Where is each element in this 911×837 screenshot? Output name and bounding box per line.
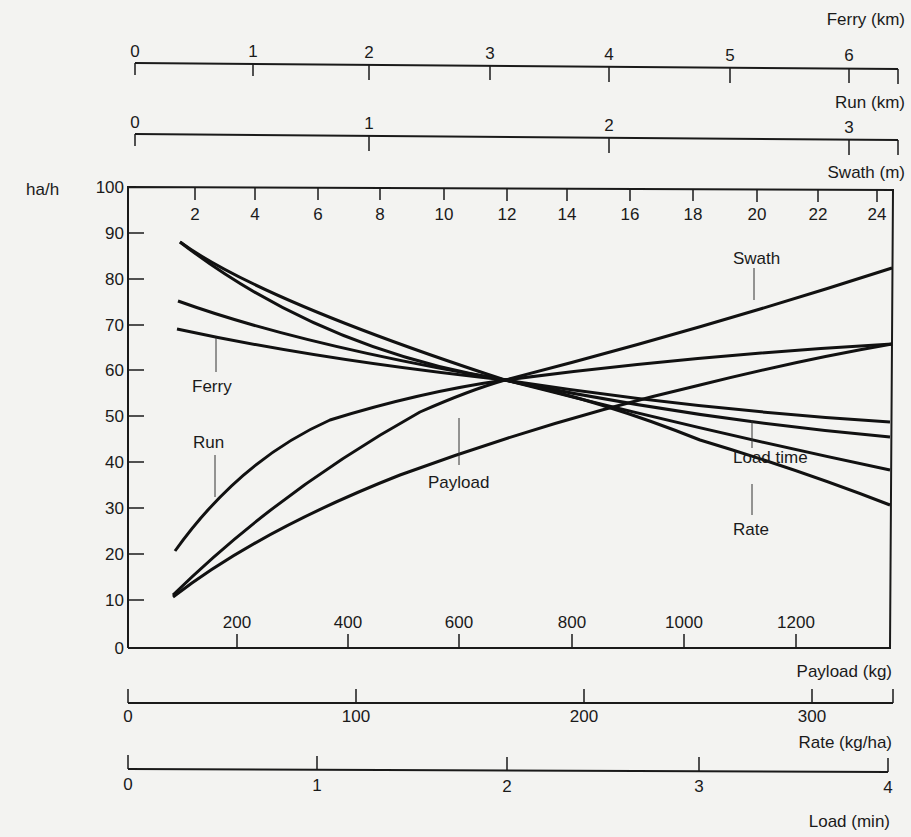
ferry-tick: 0 bbox=[130, 42, 139, 61]
y-tick: 80 bbox=[105, 270, 124, 289]
y-axis: 100 90 80 70 60 50 40 30 20 10 0 bbox=[96, 178, 144, 658]
label-swath: Swath bbox=[733, 249, 780, 268]
y-tick: 100 bbox=[96, 178, 124, 197]
label-run: Run bbox=[193, 433, 224, 452]
swath-tick: 20 bbox=[748, 205, 767, 224]
run-tick: 3 bbox=[844, 118, 853, 137]
y-tick: 20 bbox=[105, 545, 124, 564]
y-tick: 40 bbox=[105, 453, 124, 472]
y-tick: 90 bbox=[105, 224, 124, 243]
rate-tick: 300 bbox=[798, 707, 826, 726]
label-payload: Payload bbox=[428, 473, 489, 492]
ferry-tick: 3 bbox=[485, 44, 494, 63]
swath-scale: 2 4 6 8 10 12 14 16 18 20 22 24 bbox=[190, 188, 886, 224]
swath-tick: 10 bbox=[435, 205, 454, 224]
payload-tick: 1200 bbox=[777, 613, 815, 632]
load-scale-title: Load (min) bbox=[809, 812, 890, 831]
run-scale-title: Run (km) bbox=[835, 93, 905, 112]
y-tick: 70 bbox=[105, 316, 124, 335]
payload-tick: 1000 bbox=[665, 613, 703, 632]
curves bbox=[173, 242, 892, 597]
curve-labels: Ferry Run Payload Swath Load time Rate bbox=[192, 249, 808, 539]
swath-tick: 6 bbox=[313, 205, 322, 224]
load-tick: 2 bbox=[502, 777, 511, 796]
y-tick: 10 bbox=[105, 591, 124, 610]
swath-tick: 16 bbox=[621, 205, 640, 224]
swath-scale-title: Swath (m) bbox=[828, 163, 905, 182]
run-tick: 0 bbox=[130, 113, 139, 132]
rate-scale: 0 100 200 300 Rate (kg/ha) bbox=[123, 689, 893, 752]
ferry-tick: 5 bbox=[725, 46, 734, 65]
label-load-time: Load time bbox=[733, 448, 808, 467]
y-tick: 0 bbox=[115, 639, 124, 658]
ferry-scale: Ferry (km) 0 1 2 3 4 5 6 bbox=[130, 10, 905, 84]
curve-ferry-mid bbox=[178, 301, 890, 437]
ferry-tick: 2 bbox=[364, 43, 373, 62]
swath-tick: 4 bbox=[250, 205, 259, 224]
rate-tick: 100 bbox=[342, 707, 370, 726]
curve-payload bbox=[173, 344, 892, 597]
nomogram-chart: Ferry (km) 0 1 2 3 4 5 6 Run (km) 0 1 2 … bbox=[0, 0, 911, 837]
y-tick: 60 bbox=[105, 361, 124, 380]
curve-run-upper bbox=[175, 268, 892, 551]
ferry-tick: 6 bbox=[844, 46, 853, 65]
payload-tick: 600 bbox=[445, 613, 473, 632]
y-axis-unit: ha/h bbox=[26, 180, 59, 199]
label-ferry: Ferry bbox=[192, 377, 232, 396]
payload-tick: 400 bbox=[334, 613, 362, 632]
y-tick: 30 bbox=[105, 499, 124, 518]
label-rate: Rate bbox=[733, 520, 769, 539]
payload-tick: 200 bbox=[223, 613, 251, 632]
y-tick: 50 bbox=[105, 407, 124, 426]
curve-run-lower bbox=[173, 344, 892, 595]
run-tick: 1 bbox=[364, 114, 373, 133]
swath-tick: 12 bbox=[498, 205, 517, 224]
load-tick: 0 bbox=[123, 775, 132, 794]
swath-tick: 22 bbox=[809, 205, 828, 224]
rate-tick: 200 bbox=[570, 707, 598, 726]
swath-tick: 24 bbox=[868, 205, 887, 224]
swath-tick: 18 bbox=[684, 205, 703, 224]
payload-tick: 800 bbox=[558, 613, 586, 632]
swath-tick: 2 bbox=[190, 205, 199, 224]
ferry-tick: 1 bbox=[248, 42, 257, 61]
payload-scale-title: Payload (kg) bbox=[797, 662, 892, 681]
swath-tick: 8 bbox=[375, 205, 384, 224]
run-scale: Run (km) 0 1 2 3 bbox=[130, 93, 905, 155]
load-scale: 0 1 2 3 4 Load (min) bbox=[123, 755, 892, 831]
swath-tick: 14 bbox=[558, 205, 577, 224]
ferry-scale-title: Ferry (km) bbox=[827, 10, 905, 29]
run-tick: 2 bbox=[604, 116, 613, 135]
curve-ferry-upper bbox=[180, 242, 890, 470]
load-tick: 3 bbox=[694, 777, 703, 796]
ferry-tick: 4 bbox=[604, 45, 613, 64]
load-tick: 4 bbox=[883, 778, 892, 797]
rate-tick: 0 bbox=[123, 707, 132, 726]
load-tick: 1 bbox=[312, 776, 321, 795]
rate-scale-title: Rate (kg/ha) bbox=[798, 733, 892, 752]
